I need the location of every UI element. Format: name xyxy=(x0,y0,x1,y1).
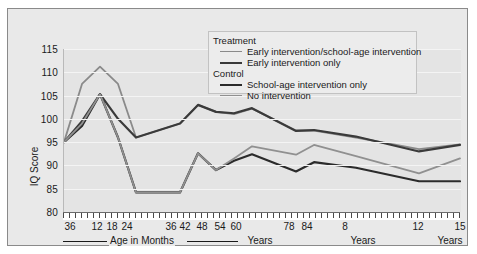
chart-legend: TreatmentEarly intervention/school-age i… xyxy=(208,31,417,94)
x-axis-tickmark xyxy=(237,213,238,218)
x-axis-tickmark xyxy=(219,213,220,218)
chart-figure: IQ Score 80859095100105110115 3612182436… xyxy=(0,0,477,254)
x-axis-tickmark xyxy=(171,213,172,218)
age-rule-right xyxy=(187,241,238,242)
x-axis-tickmark xyxy=(207,213,208,218)
x-axis-group-label-years: Years xyxy=(247,235,272,246)
y-axis-tick-90: 90 xyxy=(46,160,58,171)
x-axis-tickmark xyxy=(405,213,406,218)
x-axis-tickmark xyxy=(429,213,430,218)
x-axis-tickmark xyxy=(459,213,460,218)
legend-line-swatch xyxy=(220,62,242,64)
age-rule-left xyxy=(63,241,107,242)
x-axis-tickmark xyxy=(177,213,178,218)
x-axis-tickmark xyxy=(117,213,118,218)
x-axis-tick-label: 36 xyxy=(64,221,75,232)
legend-item[interactable]: Early intervention only xyxy=(220,57,412,68)
x-axis-tickmark xyxy=(273,213,274,218)
x-axis-band xyxy=(63,212,460,220)
x-axis-tickmark xyxy=(339,213,340,218)
legend-line-swatch xyxy=(220,95,242,96)
x-axis-tickmark xyxy=(357,213,358,218)
x-axis-tickmark xyxy=(225,213,226,218)
x-axis-tickmark xyxy=(381,213,382,218)
x-axis-tickmark xyxy=(333,213,334,218)
x-axis-tickmark xyxy=(249,213,250,218)
legend-item-label: School-age intervention only xyxy=(247,79,367,90)
y-axis-tick-100: 100 xyxy=(41,113,58,124)
x-axis-group-label: Age in Months xyxy=(109,235,175,246)
x-axis-tickmark xyxy=(315,213,316,218)
x-axis-tickmark xyxy=(141,213,142,218)
x-axis-tickmark xyxy=(195,213,196,218)
gridline-85 xyxy=(64,189,461,190)
x-axis-tickmark xyxy=(279,213,280,218)
x-axis-tick-label: 18 xyxy=(106,221,117,232)
x-axis-tickmark xyxy=(201,213,202,218)
x-axis-tickmark xyxy=(351,213,352,218)
x-axis-tick-label: 54 xyxy=(214,221,225,232)
x-axis-tickmark xyxy=(303,213,304,218)
x-axis-tick-label: 8 xyxy=(342,221,348,232)
x-axis-tickmark xyxy=(189,213,190,218)
x-axis-tickmark xyxy=(159,213,160,218)
legend-group-header: Control xyxy=(213,68,412,79)
legend-line-swatch xyxy=(220,51,242,52)
legend-item-label: No intervention xyxy=(247,90,311,101)
x-axis-tickmark xyxy=(321,213,322,218)
x-axis-tickmark xyxy=(417,213,418,218)
x-axis-tickmark xyxy=(399,213,400,218)
legend-item[interactable]: No intervention xyxy=(220,90,412,101)
x-axis-tickmark xyxy=(255,213,256,218)
x-axis-tickmark xyxy=(441,213,442,218)
x-axis-group-label-years: Years xyxy=(350,235,375,246)
x-axis-tick-label: 12 xyxy=(412,221,423,232)
y-axis-tick-110: 110 xyxy=(41,67,58,78)
x-axis-tickmark xyxy=(345,213,346,218)
x-axis-tickmark xyxy=(129,213,130,218)
x-axis-tickmark xyxy=(423,213,424,218)
x-axis-tickmark xyxy=(363,213,364,218)
y-axis-tick-115: 115 xyxy=(41,44,58,55)
x-axis-tickmark xyxy=(285,213,286,218)
x-axis-tickmark xyxy=(63,213,64,218)
legend-item[interactable]: School-age intervention only xyxy=(220,79,412,90)
x-axis-tickmark xyxy=(393,213,394,218)
legend-item[interactable]: Early intervention/school-age interventi… xyxy=(220,46,412,57)
x-axis-tick-label: 42 xyxy=(179,221,190,232)
x-axis-tick-label: 48 xyxy=(196,221,207,232)
x-axis-tickmark xyxy=(453,213,454,218)
x-axis-tickmark xyxy=(411,213,412,218)
x-axis-tickmark xyxy=(309,213,310,218)
x-axis-tickmark xyxy=(327,213,328,218)
x-axis-tickmark xyxy=(111,213,112,218)
gridline-100 xyxy=(64,119,461,120)
x-axis-tickmark xyxy=(435,213,436,218)
x-axis-tickmark xyxy=(243,213,244,218)
y-axis-tick-labels: 80859095100105110115 xyxy=(8,49,58,212)
gridline-95 xyxy=(64,142,461,143)
y-axis-tick-95: 95 xyxy=(46,137,58,148)
x-axis-group-age-in-months: Age in Months xyxy=(63,235,238,247)
x-axis-tickmark xyxy=(297,213,298,218)
x-axis-tick-label: 12 xyxy=(91,221,102,232)
x-axis-tickmark xyxy=(375,213,376,218)
x-axis-tick-label: 24 xyxy=(121,221,132,232)
series-line-2 xyxy=(64,94,460,192)
x-axis-tickmark xyxy=(69,213,70,218)
x-axis-tickmark xyxy=(165,213,166,218)
legend-item-label: Early intervention/school-age interventi… xyxy=(247,46,421,57)
x-axis-tickmark xyxy=(369,213,370,218)
x-axis-tickmark xyxy=(135,213,136,218)
y-axis-tick-105: 105 xyxy=(41,90,58,101)
x-axis-tickmark xyxy=(147,213,148,218)
x-axis-tick-label: 36 xyxy=(165,221,176,232)
x-axis-tickmark xyxy=(153,213,154,218)
x-axis-tickmark xyxy=(267,213,268,218)
chart-frame: IQ Score 80859095100105110115 3612182436… xyxy=(7,8,468,246)
x-axis-tick-label: 60 xyxy=(230,221,241,232)
x-axis-tickmark xyxy=(183,213,184,218)
x-axis-tick-label: 15 xyxy=(454,221,465,232)
y-axis-tick-85: 85 xyxy=(46,183,58,194)
x-axis-tickmark xyxy=(261,213,262,218)
